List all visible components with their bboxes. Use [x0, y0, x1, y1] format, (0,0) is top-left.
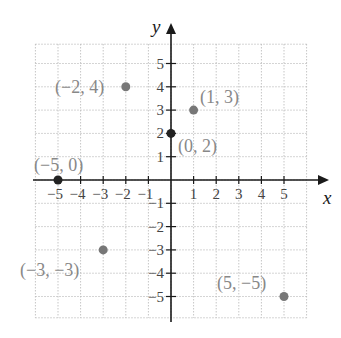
y-tick-label: 3 — [157, 102, 165, 118]
data-point — [189, 106, 198, 115]
point-label: (1, 3) — [200, 87, 239, 108]
data-point — [280, 292, 289, 301]
x-axis-arrow-icon — [318, 175, 329, 185]
y-axis-arrow-icon — [166, 23, 176, 34]
y-tick-label: 5 — [157, 56, 165, 72]
y-tick-label: 2 — [157, 125, 165, 141]
y-tick-label: −1 — [148, 195, 164, 211]
data-point — [99, 245, 108, 254]
data-point — [54, 176, 63, 185]
point-label: (5, −5) — [217, 273, 266, 294]
y-tick-label: −3 — [148, 242, 164, 258]
data-point — [167, 129, 176, 138]
data-point — [121, 82, 130, 91]
x-tick-label: −3 — [92, 186, 108, 202]
x-tick-label: −5 — [47, 186, 63, 202]
point-label: (−2, 4) — [55, 77, 104, 98]
x-tick-label: 5 — [280, 186, 288, 202]
x-tick-label: 1 — [190, 186, 198, 202]
y-axis-label: y — [150, 16, 161, 37]
x-tick-label: 2 — [212, 186, 220, 202]
x-tick-label: 3 — [235, 186, 243, 202]
x-tick-label: −4 — [70, 186, 86, 202]
y-tick-label: −4 — [148, 265, 164, 281]
point-label: (−5, 0) — [34, 155, 83, 176]
point-label: (0, 2) — [178, 136, 217, 157]
y-tick-label: 4 — [157, 79, 165, 95]
y-tick-label: 1 — [157, 149, 165, 165]
x-tick-label: 4 — [258, 186, 266, 202]
coordinate-plane: −5−4−3−2−11234554321−1−2−3−4−5 (−2, 4)(1… — [0, 0, 341, 338]
x-tick-label: −2 — [115, 186, 131, 202]
x-axis-label: x — [322, 187, 332, 208]
y-tick-label: −2 — [148, 219, 164, 235]
point-label: (−3, −3) — [20, 260, 79, 281]
y-tick-label: −5 — [148, 289, 164, 305]
